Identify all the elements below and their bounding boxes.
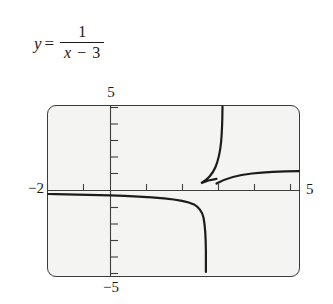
graph-canvas xyxy=(0,0,333,304)
y-axis-max-label: 5 xyxy=(103,84,119,101)
graph-window: 5 −5 −2 5 xyxy=(0,0,333,304)
axes-group xyxy=(48,106,299,276)
curve-left-branch xyxy=(49,194,206,272)
curve-right-branch-tail xyxy=(217,171,300,183)
x-axis-ticks xyxy=(48,184,291,191)
x-axis-max-label: 5 xyxy=(306,181,314,198)
y-axis-min-label: −5 xyxy=(96,279,126,296)
x-axis-min-label: −2 xyxy=(14,180,44,197)
curve-right-branch xyxy=(201,107,223,184)
